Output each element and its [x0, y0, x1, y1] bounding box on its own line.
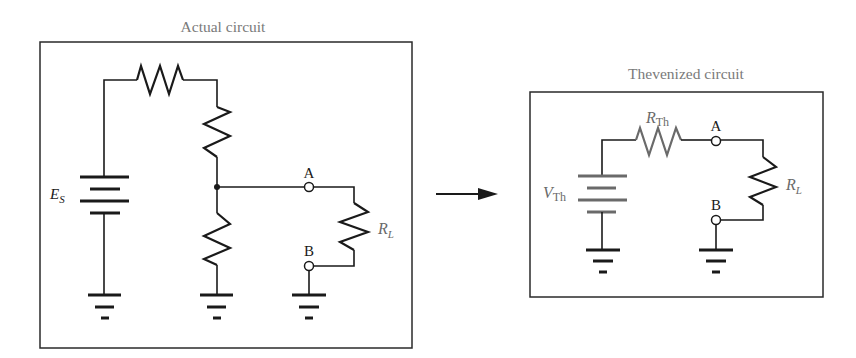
terminal-b: [305, 262, 314, 271]
terminal-a-label: A: [304, 165, 315, 181]
ground-icon: [699, 250, 733, 272]
terminal-b: [712, 216, 721, 225]
load-label-rl: RL: [785, 176, 802, 196]
wire-vth-top: [602, 140, 636, 176]
resistor-load-rl: [750, 157, 776, 205]
resistor-label-rth: RTh: [645, 109, 669, 129]
terminal-b-label: B: [304, 243, 314, 259]
resistor-divider-lower: [204, 213, 230, 265]
ground-icon: [88, 295, 121, 318]
wire-left-top: [104, 80, 137, 177]
battery-es-icon: [80, 177, 129, 213]
source-label-es: ES: [49, 186, 65, 205]
actual-circuit-title: Actual circuit: [181, 18, 266, 35]
load-label-rl: RL: [377, 220, 394, 240]
battery-vth-icon: [578, 176, 627, 212]
actual-circuit-frame: [40, 42, 412, 348]
wire-load-to-b: [314, 250, 355, 266]
terminal-a: [712, 137, 721, 146]
ground-icon: [200, 295, 233, 318]
ground-icon: [586, 250, 620, 272]
resistor-series-top: [137, 66, 183, 94]
thevenized-circuit-panel: Thevenized circuit RTh A RL B VTh: [530, 65, 823, 297]
wire-top-right: [183, 80, 217, 107]
thevenized-circuit-frame: [530, 92, 823, 297]
actual-circuit-panel: Actual circuit ES: [40, 18, 412, 348]
resistor-divider-upper: [204, 107, 230, 157]
wire-load-to-b: [721, 205, 764, 220]
arrow-icon: [436, 188, 498, 200]
source-label-vth: VTh: [543, 184, 566, 204]
terminal-a: [305, 183, 314, 192]
wire-a-to-load: [314, 187, 355, 203]
thevenized-circuit-title: Thevenized circuit: [628, 65, 744, 82]
ground-icon: [292, 295, 326, 318]
wire-a-to-load: [721, 140, 764, 157]
resistor-rth: [636, 128, 681, 155]
circuit-figure: Actual circuit ES: [0, 0, 856, 358]
resistor-load-rl: [340, 203, 368, 250]
terminal-b-label: B: [711, 197, 721, 213]
terminal-a-label: A: [711, 118, 722, 134]
